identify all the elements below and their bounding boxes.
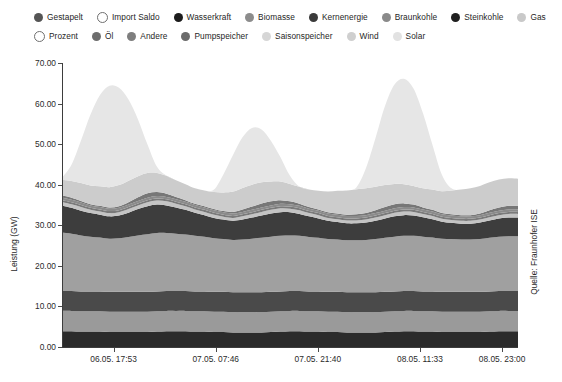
x-axis-tick-mark	[502, 348, 503, 352]
x-axis-tick-mark	[114, 348, 115, 352]
legend-item-label: Gestapelt	[47, 13, 83, 22]
x-axis-labels: 06.05. 17:5307.05. 07:4607.05. 21:4008.0…	[0, 56, 562, 382]
legend-item-label: Import Saldo	[112, 13, 160, 22]
legend-item-gas[interactable]: Gas	[517, 13, 545, 22]
legend-swatch-icon	[34, 13, 43, 22]
legend-item-kernenergie[interactable]: Kernenergie	[309, 13, 368, 22]
legend-swatch-icon	[92, 32, 101, 41]
legend-item-pumpspeicher[interactable]: Pumpspeicher	[181, 32, 248, 41]
legend-item-import-saldo[interactable]: Import Saldo	[97, 12, 160, 23]
legend-row-2: ProzentÖlAnderePumpspeicherSaisonspeiche…	[0, 27, 562, 46]
legend-swatch-icon	[347, 32, 356, 41]
legend-item-label: Steinkohle	[464, 13, 503, 22]
legend-item-label: Pumpspeicher	[194, 32, 248, 41]
x-axis-tick-label: 07.05. 07:46	[192, 354, 239, 364]
legend-item-gestapelt[interactable]: Gestapelt	[34, 13, 83, 22]
legend-item-wind[interactable]: Wind	[347, 32, 379, 41]
legend-item-prozent[interactable]: Prozent	[34, 31, 78, 42]
legend-item-label: Andere	[140, 32, 167, 41]
legend-item-solar[interactable]: Solar	[393, 32, 426, 41]
chart-legend: GestapeltImport SaldoWasserkraftBiomasse…	[0, 8, 562, 46]
chart-page: GestapeltImport SaldoWasserkraftBiomasse…	[0, 0, 562, 382]
legend-item-steinkohle[interactable]: Steinkohle	[451, 13, 503, 22]
legend-item-label: Wind	[360, 32, 379, 41]
legend-item-label: Kernenergie	[322, 13, 368, 22]
legend-swatch-icon	[245, 13, 254, 22]
legend-swatch-icon	[262, 32, 271, 41]
legend-item-label: Biomasse	[258, 13, 295, 22]
legend-item-andere[interactable]: Andere	[127, 32, 167, 41]
legend-swatch-icon	[127, 32, 136, 41]
legend-swatch-icon	[97, 12, 108, 23]
legend-row-1: GestapeltImport SaldoWasserkraftBiomasse…	[0, 8, 562, 27]
legend-swatch-icon	[34, 31, 45, 42]
legend-swatch-icon	[393, 32, 402, 41]
legend-swatch-icon	[517, 13, 526, 22]
legend-swatch-icon	[181, 32, 190, 41]
x-axis-tick-label: 08.05. 11:33	[397, 354, 443, 364]
legend-item-label: Braunkohle	[395, 13, 437, 22]
legend-item-label: Prozent	[49, 32, 78, 41]
legend-item-braunkohle[interactable]: Braunkohle	[382, 13, 437, 22]
plot-area: Leistung (GW) Quelle: Fraunhofer ISE 0.0…	[0, 56, 562, 382]
legend-swatch-icon	[309, 13, 318, 22]
x-axis-tick-mark	[216, 348, 217, 352]
x-axis-tick-mark	[420, 348, 421, 352]
legend-item-label: Solar	[406, 32, 426, 41]
legend-item-label: Wasserkraft	[187, 13, 232, 22]
legend-swatch-icon	[174, 13, 183, 22]
x-axis-tick-label: 06.05. 17:53	[90, 354, 137, 364]
legend-item-label: Saisonspeicher	[275, 32, 332, 41]
x-axis-tick-mark	[318, 348, 319, 352]
x-axis-tick-label: 08.05. 23:00	[479, 354, 526, 364]
legend-swatch-icon	[451, 13, 460, 22]
legend-item-biomasse[interactable]: Biomasse	[245, 13, 295, 22]
legend-swatch-icon	[382, 13, 391, 22]
legend-item-wasserkraft[interactable]: Wasserkraft	[174, 13, 232, 22]
legend-item-label: Gas	[530, 13, 545, 22]
legend-item--l[interactable]: Öl	[92, 32, 113, 41]
x-axis-tick-label: 07.05. 21:40	[295, 354, 342, 364]
legend-item-saisonspeicher[interactable]: Saisonspeicher	[262, 32, 332, 41]
legend-item-label: Öl	[105, 32, 113, 41]
